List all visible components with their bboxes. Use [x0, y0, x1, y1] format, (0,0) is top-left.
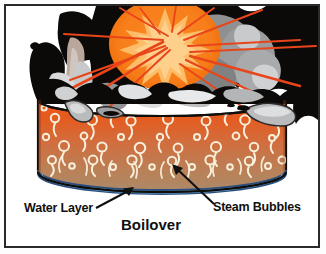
steam-bubbles-label: Steam Bubbles	[213, 200, 301, 214]
illustration-frame: Water Layer Steam Bubbles Boilover	[0, 0, 326, 254]
water-layer-label: Water Layer	[24, 201, 93, 215]
diagram-caption: Boilover	[121, 216, 181, 233]
